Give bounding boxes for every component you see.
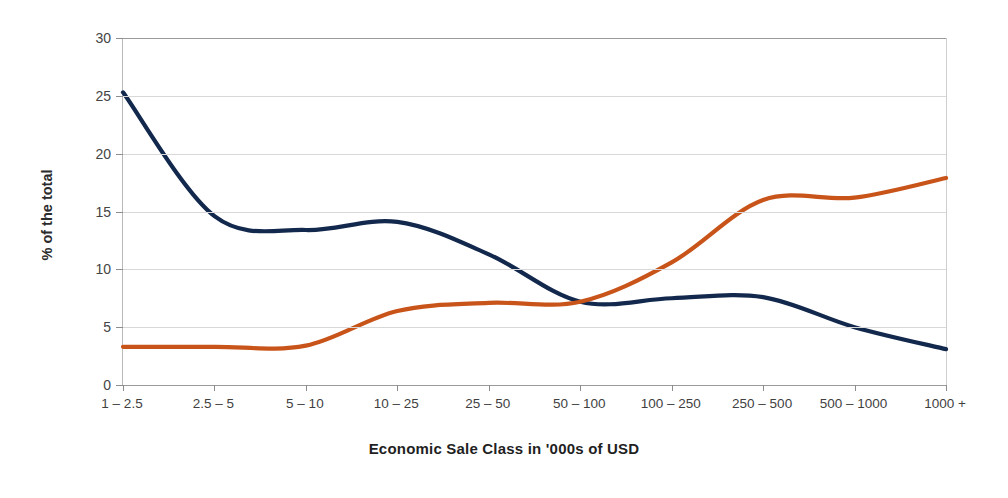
x-tick-mark xyxy=(397,385,398,391)
gridline xyxy=(123,38,946,39)
y-tick-mark xyxy=(116,38,123,39)
x-tick-label: 2.5 – 5 xyxy=(193,396,234,411)
x-tick-label: 500 – 1000 xyxy=(820,396,888,411)
x-tick-label: 250 – 500 xyxy=(732,396,792,411)
y-tick-mark xyxy=(116,269,123,270)
x-tick-mark xyxy=(306,385,307,391)
x-tick-label: 100 – 250 xyxy=(641,396,701,411)
x-tick-mark xyxy=(672,385,673,391)
x-tick-label: 1 – 2.5 xyxy=(101,396,142,411)
x-tick-mark xyxy=(946,385,947,391)
y-tick-label: 0 xyxy=(103,377,111,393)
x-tick-labels: 1 – 2.52.5 – 55 – 1010 – 2525 – 5050 – 1… xyxy=(122,396,945,418)
x-tick-label: 5 – 10 xyxy=(286,396,324,411)
x-tick-label: 10 – 25 xyxy=(374,396,419,411)
y-tick-mark xyxy=(116,327,123,328)
y-tick-mark xyxy=(116,212,123,213)
series-line-navy-series xyxy=(123,92,946,349)
chart-figure: % of the total 051015202530 1 – 2.52.5 –… xyxy=(0,0,1008,498)
y-tick-mark xyxy=(116,96,123,97)
y-axis-title-text: % of the total xyxy=(39,169,55,260)
y-tick-label: 5 xyxy=(103,319,111,335)
y-tick-label: 10 xyxy=(95,261,111,277)
y-tick-label: 30 xyxy=(95,30,111,46)
plot-area: 051015202530 xyxy=(122,38,947,385)
y-tick-label: 25 xyxy=(95,88,111,104)
x-tick-label: 50 – 100 xyxy=(553,396,606,411)
y-tick-mark xyxy=(116,385,123,386)
x-tick-mark xyxy=(580,385,581,391)
gridline xyxy=(123,96,946,97)
gridline xyxy=(123,385,946,386)
x-axis-title: Economic Sale Class in '000s of USD xyxy=(0,440,1008,457)
x-tick-label: 25 – 50 xyxy=(465,396,510,411)
y-tick-mark xyxy=(116,154,123,155)
series-line-orange-series xyxy=(123,178,946,349)
x-tick-mark xyxy=(489,385,490,391)
gridline xyxy=(123,212,946,213)
gridline xyxy=(123,327,946,328)
y-tick-label: 20 xyxy=(95,146,111,162)
gridline xyxy=(123,269,946,270)
x-tick-mark xyxy=(763,385,764,391)
y-tick-label: 15 xyxy=(95,204,111,220)
y-axis-title: % of the total xyxy=(34,120,60,310)
x-tick-label: 1000 + xyxy=(924,396,966,411)
x-tick-mark xyxy=(855,385,856,391)
x-tick-mark xyxy=(214,385,215,391)
x-tick-mark xyxy=(123,385,124,391)
gridline xyxy=(123,154,946,155)
